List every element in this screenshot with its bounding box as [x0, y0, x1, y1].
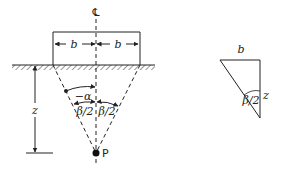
angle-half-beta-right: β/2 [97, 102, 118, 118]
depth-dimension: z [26, 66, 53, 153]
point-p: P [93, 147, 110, 160]
svg-text:b: b [237, 43, 244, 56]
svg-text:β/2: β/2 [97, 105, 115, 118]
svg-text:β/2: β/2 [241, 94, 259, 107]
inset-triangle: b z β/2 [220, 43, 269, 118]
half-width-dimension-left: b [55, 38, 95, 51]
svg-text:b: b [70, 38, 77, 51]
svg-text:b: b [114, 38, 121, 51]
angle-half-beta-left: β/2 [74, 102, 95, 118]
ground-surface [12, 65, 155, 70]
svg-text:z: z [31, 104, 38, 117]
half-width-dimension-right: b [97, 38, 138, 51]
svg-text:P: P [102, 147, 109, 160]
angle-alpha: −α [64, 87, 95, 104]
footing-stress-diagram: ℄ b b −α β/2 β/2 z P [0, 0, 282, 171]
centerline-symbol: ℄ [91, 6, 99, 19]
svg-text:z: z [262, 89, 269, 102]
svg-text:−α: −α [75, 90, 92, 103]
svg-text:β/2: β/2 [75, 105, 93, 118]
